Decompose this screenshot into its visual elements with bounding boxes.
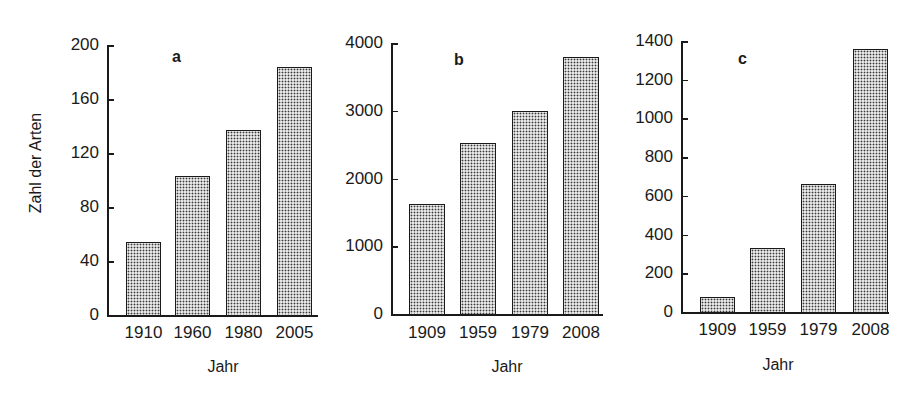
x-tick-label: 1909 [693,321,743,339]
bar-1909 [409,204,445,315]
y-tick-label: 4000 [323,34,383,52]
bar-1980 [226,130,261,316]
y-tick-mark [681,273,688,275]
panel-label: b [454,51,464,69]
y-tick-mark [681,118,688,120]
x-axis-label: Jahr [738,356,818,374]
y-axis-line [107,45,109,316]
x-tick-label: 2008 [556,324,606,342]
y-tick-label: 80 [39,198,99,216]
x-tick-label: 1979 [794,321,844,339]
y-tick-mark [681,157,688,159]
x-tick-label: 1960 [168,324,218,342]
y-tick-label: 400 [613,226,673,244]
y-tick-mark [391,179,398,181]
y-tick-mark [107,207,114,209]
y-tick-mark [107,261,114,263]
y-tick-label: 160 [39,90,99,108]
bar-1979 [801,184,836,313]
bar-1979 [512,111,548,315]
bar-1960 [175,176,210,316]
y-tick-label: 0 [323,305,383,323]
x-tick-label: 1980 [219,324,269,342]
y-tick-label: 1400 [613,32,673,50]
y-tick-label: 0 [613,303,673,321]
y-tick-label: 40 [39,252,99,270]
bar-1909 [700,297,735,313]
y-tick-label: 600 [613,187,673,205]
y-tick-label: 800 [613,148,673,166]
y-tick-label: 2000 [323,170,383,188]
y-tick-label: 200 [39,36,99,54]
y-tick-mark [681,80,688,82]
y-axis-line [681,41,683,313]
y-tick-label: 3000 [323,102,383,120]
bar-1959 [460,143,496,315]
x-tick-label: 1959 [453,324,503,342]
panel-label: c [738,50,747,68]
bar-2008 [853,49,888,313]
y-tick-mark [681,235,688,237]
panel-label: a [172,48,181,66]
x-tick-label: 1979 [505,324,555,342]
y-tick-label: 120 [39,144,99,162]
y-tick-mark [107,45,114,47]
y-tick-label: 1000 [323,237,383,255]
x-axis-label: Jahr [183,358,263,376]
y-tick-label: 1000 [613,109,673,127]
bar-2008 [563,57,599,315]
x-tick-label: 1909 [402,324,452,342]
y-tick-mark [391,246,398,248]
x-tick-label: 1910 [119,324,169,342]
y-tick-mark [681,41,688,43]
y-tick-label: 200 [613,264,673,282]
y-tick-mark [391,43,398,45]
x-tick-label: 2005 [270,324,320,342]
y-tick-label: 1200 [613,71,673,89]
bar-2005 [277,67,312,316]
x-tick-label: 1959 [743,321,793,339]
bar-1910 [126,242,161,316]
x-tick-label: 2008 [846,321,896,339]
y-tick-label: 0 [39,306,99,324]
y-tick-mark [107,99,114,101]
y-tick-mark [107,153,114,155]
bar-1959 [750,248,785,313]
x-axis-label: Jahr [467,358,547,376]
y-tick-mark [681,196,688,198]
y-tick-mark [391,111,398,113]
